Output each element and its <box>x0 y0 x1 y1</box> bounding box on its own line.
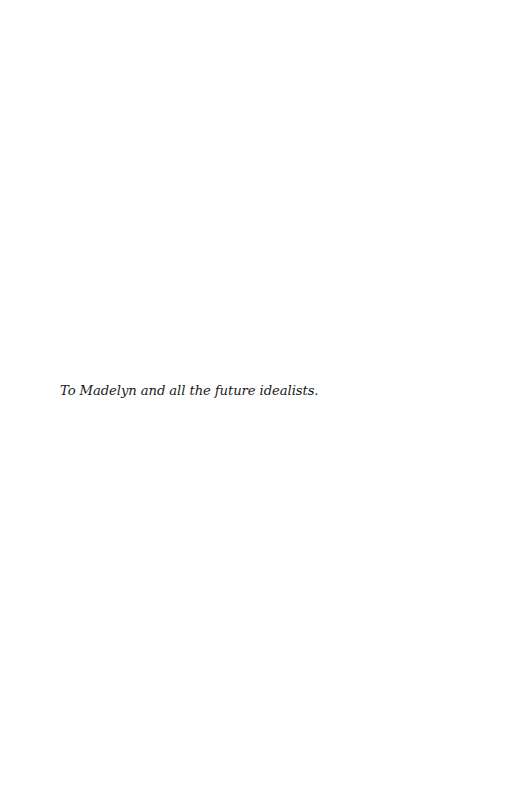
book-page: To Madelyn and all the future idealists. <box>0 0 506 788</box>
dedication-text: To Madelyn and all the future idealists. <box>60 382 318 400</box>
